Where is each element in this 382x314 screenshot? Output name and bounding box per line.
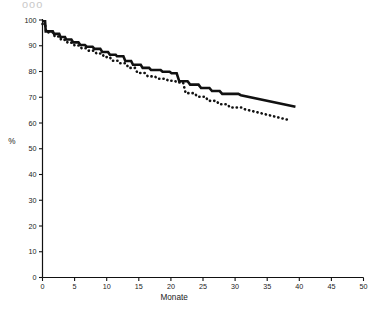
y-tick-label: 70 xyxy=(29,93,37,102)
x-tick-label: 35 xyxy=(263,282,271,291)
survival-chart-figure: ooo 0102030405060708090100 0510152025303… xyxy=(0,0,382,314)
x-tick-label: 40 xyxy=(295,282,303,291)
y-tick-label: 30 xyxy=(29,196,37,205)
x-tick-label: 30 xyxy=(231,282,239,291)
axes-group xyxy=(43,19,364,278)
x-tick-label: 15 xyxy=(135,282,143,291)
y-tick-label: 10 xyxy=(29,247,37,256)
x-tick-label: 25 xyxy=(199,282,207,291)
data-series-group xyxy=(43,21,296,120)
y-tick-label: 60 xyxy=(29,119,37,128)
y-tick-label: 20 xyxy=(29,222,37,231)
series-solid-curve xyxy=(43,21,296,106)
x-tick-label: 10 xyxy=(103,282,111,291)
x-tick-label: 50 xyxy=(360,282,368,291)
header-text: ooo xyxy=(22,0,43,10)
x-tick-label: 45 xyxy=(327,282,335,291)
y-axis-title: % xyxy=(8,137,15,146)
y-tick-label: 0 xyxy=(33,273,37,282)
y-axis-tick-labels: 0102030405060708090100 xyxy=(25,16,37,283)
y-tick-label: 90 xyxy=(29,41,37,50)
y-tick-label: 40 xyxy=(29,170,37,179)
x-tick-label: 5 xyxy=(73,282,77,291)
y-tick-label: 50 xyxy=(29,144,37,153)
x-axis-tick-labels: 05101520253035404550 xyxy=(41,282,368,291)
x-tick-label: 0 xyxy=(41,282,45,291)
x-axis-title: Monate xyxy=(160,293,188,302)
y-tick-label: 80 xyxy=(29,67,37,76)
x-tick-label: 20 xyxy=(167,282,175,291)
y-tick-label: 100 xyxy=(25,16,37,25)
chart-canvas: 0102030405060708090100 05101520253035404… xyxy=(0,0,382,314)
